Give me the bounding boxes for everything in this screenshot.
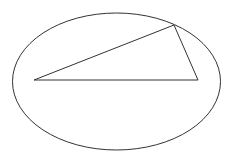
triangle-inscribed	[34, 25, 198, 80]
geometry-diagram	[0, 0, 230, 156]
ellipse-shape	[13, 13, 221, 150]
